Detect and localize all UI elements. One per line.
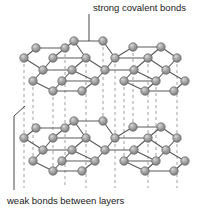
graphite-lattice-diagram: strong covalent bonds weak bonds between… — [0, 0, 206, 209]
weak-bonds-leader — [14, 106, 25, 190]
lower-layer-atoms — [20, 117, 189, 175]
graphite-structure-figure: strong covalent bonds weak bonds between… — [0, 0, 206, 209]
weak-bonds-between-layers-label: weak bonds between layers — [6, 195, 124, 206]
interlayer-weak-bonds — [24, 41, 177, 188]
upper-layer-atoms — [20, 37, 189, 95]
strong-covalent-bonds-label: strong covalent bonds — [93, 2, 186, 13]
